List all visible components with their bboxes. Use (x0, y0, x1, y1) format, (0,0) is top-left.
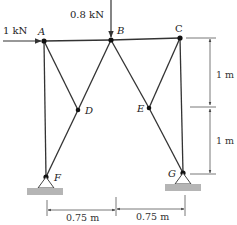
member-bd (78, 40, 111, 110)
truss-members (44, 38, 183, 177)
label-e: E (136, 103, 145, 114)
label-b: B (116, 25, 124, 36)
label-a: A (37, 26, 45, 37)
member-cg (180, 38, 183, 173)
label-c: C (175, 23, 183, 34)
member-bc (111, 38, 180, 40)
member-af (44, 41, 46, 177)
truss-diagram: A B C D E F G 1 kN 0.8 kN 1 m 1 m 0.75 m… (0, 0, 237, 225)
dim-vertical-bottom-label: 1 m (216, 135, 234, 146)
label-g: G (168, 168, 176, 179)
label-d: D (84, 105, 93, 116)
member-eg (149, 108, 183, 173)
joint-b (108, 37, 113, 42)
joint-d (76, 108, 81, 113)
joint-c (177, 35, 182, 40)
load-b-label: 0.8 kN (70, 9, 104, 20)
label-f: F (53, 172, 62, 183)
dim-horizontal-right-label: 0.75 m (136, 211, 169, 222)
truss-joints (41, 35, 185, 179)
member-ad (44, 41, 78, 110)
dim-horizontal-left-label: 0.75 m (66, 212, 99, 223)
member-be (111, 40, 149, 108)
dim-vertical-top-label: 1 m (216, 69, 234, 80)
joint-a (41, 38, 46, 43)
vertical-dimension (186, 38, 216, 174)
load-a-label: 1 kN (3, 25, 28, 36)
member-ab (44, 40, 111, 41)
member-df (46, 110, 78, 177)
joint-e (147, 106, 152, 111)
member-ce (149, 38, 180, 108)
